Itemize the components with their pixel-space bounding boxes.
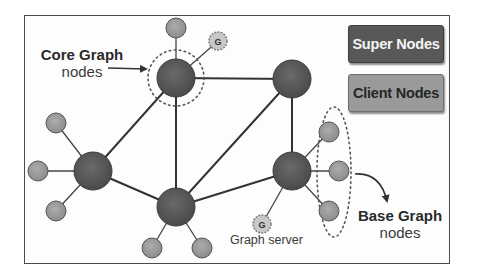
legend-super-nodes-label: Super Nodes — [352, 36, 439, 52]
base-graph-label: Base Graph nodes — [352, 208, 448, 241]
client-node — [28, 161, 48, 181]
client-node — [142, 238, 162, 258]
client-node — [46, 201, 66, 221]
base-graph-arrow-icon — [355, 174, 387, 201]
super-node-D — [157, 188, 195, 226]
graph-server-node-1: G — [209, 32, 227, 50]
graph-server-label: Graph server — [230, 233, 303, 247]
graph-server-node-2: G — [253, 215, 271, 233]
base-graph-title: Base Graph — [352, 208, 448, 225]
edge-B-D — [176, 79, 292, 207]
core-graph-subtitle: nodes — [37, 64, 127, 81]
super-node-A — [157, 59, 195, 97]
super-node-C — [74, 152, 112, 190]
core-graph-title: Core Graph — [37, 47, 127, 64]
client-node — [319, 201, 339, 221]
client-node — [329, 161, 349, 181]
core-edges — [93, 78, 292, 207]
legend-client-nodes: Client Nodes — [348, 74, 444, 112]
core-graph-label: Core Graph nodes — [37, 47, 127, 80]
client-node — [46, 113, 66, 133]
graph-server-nodes: G G — [209, 32, 271, 233]
g-glyph: G — [258, 220, 265, 230]
legend-super-nodes: Super Nodes — [348, 25, 444, 63]
base-graph-subtitle: nodes — [352, 225, 448, 242]
super-node-B — [273, 60, 311, 98]
legend-client-nodes-label: Client Nodes — [353, 85, 439, 101]
super-node-E — [273, 152, 311, 190]
client-node — [319, 122, 339, 142]
client-node — [192, 238, 212, 258]
g-glyph: G — [214, 37, 221, 47]
client-node — [166, 18, 186, 38]
